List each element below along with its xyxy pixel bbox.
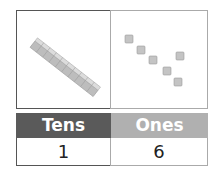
tens-value: 1 [16, 138, 111, 166]
ones-header: Ones [111, 113, 208, 138]
ten-rod-icon [17, 11, 112, 110]
unit-cubes-icon [111, 11, 209, 110]
tens-blocks-panel [16, 10, 111, 109]
tens-header: Tens [16, 113, 111, 138]
ones-blocks-panel [110, 10, 208, 109]
ones-value: 6 [110, 138, 208, 166]
